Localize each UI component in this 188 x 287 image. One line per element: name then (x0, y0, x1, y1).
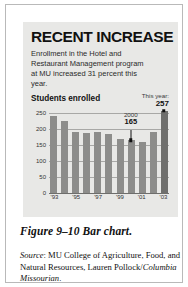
annotation-marker (129, 139, 133, 143)
x-tick-label: '95 (72, 194, 80, 200)
panel-deck: Enrollment in the Hotel and Restaurant M… (31, 49, 151, 89)
chart-header-row: Students enrolled This year: 257 (31, 94, 170, 110)
y-tick-label: 150 (36, 142, 46, 148)
bar (50, 116, 57, 193)
x-tick-label: '97 (94, 194, 102, 200)
bar-chart: 050100150200250 2000165 '93'95'97'99'01'… (31, 110, 170, 205)
x-axis-labels: '93'95'97'99'01'03 (49, 194, 169, 204)
y-tick-label: 250 (36, 110, 46, 116)
figure-frame: RECENT INCREASE Enrollment in the Hotel … (5, 4, 183, 283)
bar (61, 121, 68, 193)
figure-page: RECENT INCREASE Enrollment in the Hotel … (0, 0, 188, 287)
y-tick-label: 200 (36, 126, 46, 132)
bar-series (49, 113, 169, 193)
figure-source: Source: MU College of Agriculture, Food,… (20, 250, 186, 285)
plot-area: 050100150200250 2000165 (49, 113, 169, 193)
bar (94, 132, 101, 193)
x-tick-label: '03 (160, 194, 168, 200)
bar (150, 132, 157, 193)
bar (83, 133, 90, 193)
y-tick-label: 0 (43, 190, 46, 196)
chart-subhead: Students enrolled (31, 94, 100, 103)
annotation-marker (162, 109, 166, 113)
infographic-panel: RECENT INCREASE Enrollment in the Hotel … (23, 22, 178, 217)
x-tick-label: '01 (138, 194, 146, 200)
x-tick-label: '99 (116, 194, 124, 200)
y-tick-label: 100 (36, 158, 46, 164)
this-year-value: 257 (142, 100, 169, 109)
x-tick-label: '93 (51, 194, 59, 200)
bar (117, 139, 124, 193)
source-period: . (59, 273, 61, 283)
bar (139, 142, 146, 193)
bar (105, 134, 112, 194)
y-tick-label: 50 (39, 174, 46, 180)
callout-value: 165 (124, 118, 138, 126)
bar (72, 132, 79, 193)
this-year-callout: This year: 257 (142, 93, 169, 109)
source-label: Source (20, 250, 44, 260)
figure-caption: Figure 9–10 Bar chart. (20, 225, 182, 237)
bar (128, 140, 135, 193)
bar (161, 111, 168, 193)
callout-2000: 2000165 (124, 112, 138, 127)
panel-title: RECENT INCREASE (31, 29, 170, 45)
